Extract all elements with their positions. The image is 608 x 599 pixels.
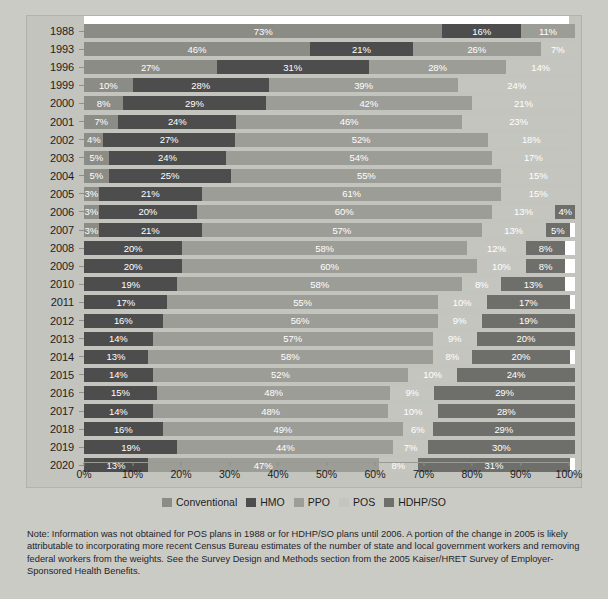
bar-segment: 14% xyxy=(84,332,153,346)
stacked-bar: 17%55%10%17% xyxy=(84,295,575,309)
bar-segment: 20% xyxy=(477,332,575,346)
stacked-bar: 19%58%8%13% xyxy=(84,277,575,291)
x-tick-mark xyxy=(374,462,375,466)
stacked-bar: 46%21%26%7% xyxy=(84,42,575,56)
stacked-bar: 73%16%11% xyxy=(84,24,575,38)
bar-segment: 17% xyxy=(84,295,167,309)
bar-segment: 10% xyxy=(408,368,457,382)
bar-row: 201019%58%8%13% xyxy=(27,275,575,293)
x-tick-mark xyxy=(471,462,472,466)
y-axis-label: 2004 xyxy=(27,170,79,182)
y-axis-label: 2012 xyxy=(27,315,79,327)
bar-segment: 16% xyxy=(84,314,163,328)
stacked-bar: 4%27%52%18% xyxy=(84,133,575,147)
bar-segment: 16% xyxy=(84,422,163,436)
bar-row: 20024%27%52%18% xyxy=(27,131,575,149)
y-axis-label: 2000 xyxy=(27,97,79,109)
bar-segment: 24% xyxy=(458,78,575,92)
bar-row: 20053%21%61%15% xyxy=(27,185,575,203)
bar-segment: 15% xyxy=(84,386,157,400)
bar-segment: 4% xyxy=(555,205,575,219)
bar-segment: 9% xyxy=(433,332,477,346)
bar-segment: 21% xyxy=(472,96,575,110)
bar-row: 201816%49%6%29% xyxy=(27,420,575,438)
bar-segment: 10% xyxy=(438,295,487,309)
y-axis-label: 2001 xyxy=(27,116,79,128)
bar-segment: 17% xyxy=(487,295,570,309)
bar-segment: 3% xyxy=(84,223,99,237)
bar-row: 20035%24%54%17% xyxy=(27,149,575,167)
y-axis-label: 2002 xyxy=(27,134,79,146)
y-axis-label: 1996 xyxy=(27,61,79,73)
bar-row: 199627%31%28%14% xyxy=(27,58,575,76)
legend-item[interactable]: POS xyxy=(339,496,375,508)
y-axis-label: 2007 xyxy=(27,224,79,236)
bar-segment: 27% xyxy=(103,133,234,147)
bar-segment: 14% xyxy=(506,60,575,74)
bar-segment: 20% xyxy=(84,259,182,273)
chart-page: 198873%16%11%199346%21%26%7%199627%31%28… xyxy=(0,0,608,599)
y-axis-label: 2015 xyxy=(27,369,79,381)
bar-segment: 54% xyxy=(226,151,491,165)
bar-segment: 46% xyxy=(84,42,310,56)
bar-segment: 8% xyxy=(526,259,565,273)
x-tick-mark xyxy=(277,462,278,466)
bar-segment: 52% xyxy=(235,133,488,147)
y-axis-label: 2019 xyxy=(27,441,79,453)
x-tick-label: 60% xyxy=(364,468,385,480)
legend-item[interactable]: Conventional xyxy=(162,496,237,508)
bar-segment: 13% xyxy=(84,350,148,364)
bar-segment: 11% xyxy=(521,24,575,38)
bar-segment: 12% xyxy=(467,241,526,255)
legend-item[interactable]: HDHP/SO xyxy=(384,496,446,508)
legend-item[interactable]: HMO xyxy=(246,496,285,508)
chart-plate: 198873%16%11%199346%21%26%7%199627%31%28… xyxy=(26,15,582,488)
y-axis-label: 2005 xyxy=(27,188,79,200)
bar-segment: 56% xyxy=(163,314,438,328)
bar-row: 20045%25%55%15% xyxy=(27,167,575,185)
bar-segment: 4% xyxy=(84,133,103,147)
bar-segment: 29% xyxy=(434,386,575,400)
stacked-bar: 19%44%7%30% xyxy=(84,440,575,454)
bar-segment: 10% xyxy=(388,404,437,418)
x-tick: 30% xyxy=(219,462,240,480)
x-tick-mark xyxy=(132,462,133,466)
stacked-bar: 15%48%9%29% xyxy=(84,386,575,400)
x-tick: 10% xyxy=(122,462,143,480)
y-axis-label: 2009 xyxy=(27,260,79,272)
stacked-bar: 16%49%6%29% xyxy=(84,422,575,436)
bar-segment: 8% xyxy=(84,96,123,110)
bar-segment: 31% xyxy=(217,60,369,74)
bar-segment: 49% xyxy=(163,422,404,436)
x-tick: 40% xyxy=(267,462,288,480)
stacked-bar: 3%21%57%13%5% xyxy=(84,223,575,237)
bar-segment: 18% xyxy=(488,133,576,147)
bar-segment: 55% xyxy=(231,169,501,183)
x-tick-mark xyxy=(229,462,230,466)
bar-segment: 8% xyxy=(526,241,565,255)
y-axis-label: 1993 xyxy=(27,43,79,55)
bar-segment: 10% xyxy=(477,259,526,273)
x-tick: 80% xyxy=(461,462,482,480)
y-axis-label: 2016 xyxy=(27,387,79,399)
bar-row: 20073%21%57%13%5% xyxy=(27,221,575,239)
legend-swatch-icon xyxy=(246,498,256,507)
bar-segment: 21% xyxy=(99,187,202,201)
y-axis-label: 2008 xyxy=(27,242,79,254)
bar-segment: 14% xyxy=(84,404,153,418)
legend-item[interactable]: PPO xyxy=(294,496,330,508)
bar-segment: 7% xyxy=(84,115,118,129)
bar-segment: 13% xyxy=(501,277,565,291)
x-axis: 0%10%20%30%40%50%60%70%80%90%100% xyxy=(27,462,575,488)
legend-label: Conventional xyxy=(176,496,237,508)
bar-segment: 7% xyxy=(541,42,575,56)
bar-segment: 6% xyxy=(403,422,432,436)
stacked-bar: 5%24%54%17% xyxy=(84,151,575,165)
bar-segment: 21% xyxy=(310,42,413,56)
stacked-bar: 8%29%42%21% xyxy=(84,96,575,110)
bar-segment: 5% xyxy=(84,169,109,183)
x-tick-label: 20% xyxy=(170,468,191,480)
bar-row: 201216%56%9%19% xyxy=(27,312,575,330)
stacked-bar: 3%21%61%15% xyxy=(84,187,575,201)
x-tick-mark xyxy=(423,462,424,466)
